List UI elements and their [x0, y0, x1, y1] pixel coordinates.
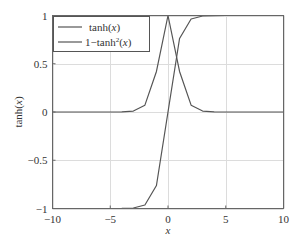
y-tick-label: 0	[42, 106, 48, 118]
legend-entry-tanh: tanh(x)	[89, 21, 121, 34]
y-axis-ticks: −1−0.500.51	[28, 10, 56, 215]
legend: tanh(x) 1−tanh2(x)	[54, 17, 150, 52]
legend-entry-derivative: 1−tanh2(x)	[85, 36, 132, 49]
x-tick-label: −5	[104, 213, 116, 225]
x-tick-label: 0	[165, 213, 171, 225]
y-tick-label: 1	[42, 10, 48, 22]
chart: −10−50510 −1−0.500.51 x tanh(x) tanh(x) …	[0, 0, 299, 250]
x-tick-label: 10	[278, 213, 290, 225]
y-tick-label: −1	[36, 203, 48, 215]
x-tick-label: 5	[223, 213, 229, 225]
y-tick-label: 0.5	[34, 58, 48, 70]
y-tick-label: −0.5	[28, 154, 48, 166]
x-axis-label: x	[165, 224, 171, 236]
y-axis-label: tanh(x)	[12, 96, 25, 128]
